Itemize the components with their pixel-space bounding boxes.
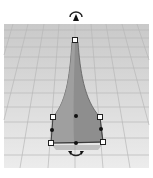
handle-mid-back[interactable] [74,114,78,118]
handle-back-left[interactable] [51,115,56,120]
handle-front-right[interactable] [101,140,106,145]
handle-front-left[interactable] [49,141,54,146]
handle-top[interactable] [73,38,78,43]
rotate-vertical-icon[interactable] [70,12,82,21]
handle-mid-front[interactable] [74,141,78,145]
handle-back-right[interactable] [98,115,103,120]
scene [0,0,153,178]
shape-shadow [52,145,102,150]
handle-mid-right[interactable] [99,127,103,131]
handle-mid-left[interactable] [50,128,54,132]
3d-viewport[interactable] [0,0,153,178]
